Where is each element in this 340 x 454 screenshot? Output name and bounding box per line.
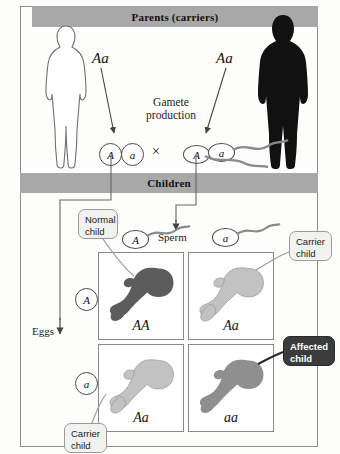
punnett-label-Aa-1: Aa [188, 318, 274, 334]
cross-symbol: × [152, 144, 160, 160]
callout-carrier-bottom-line1: Carrier [71, 428, 100, 439]
gamete-production-line2: production [146, 109, 196, 121]
callout-normal-child: Normal child [78, 209, 118, 239]
sperm-column-allele-A: A [122, 230, 149, 249]
callout-affected-child: Affected child [283, 336, 335, 366]
egg-allele-a: a [121, 143, 144, 166]
callout-carrier-child-bottom: Carrier child [64, 423, 107, 453]
punnett-label-Aa-2: Aa [98, 410, 184, 426]
gamete-production-line1: Gamete [153, 96, 189, 108]
callout-affected-line1: Affected [290, 341, 328, 352]
diagram-canvas: Parents (carriers) Aa Aa Gamete producti… [0, 0, 340, 454]
callout-carrier-top-line2: child [296, 248, 316, 259]
callout-affected-line2: child [290, 353, 312, 364]
punnett-label-aa: aa [188, 410, 274, 426]
band-children: Children [20, 173, 318, 193]
sperm-axis-label: Sperm [158, 231, 187, 243]
egg-row-allele-A: A [75, 288, 98, 311]
sperm-allele-A: A [183, 145, 210, 164]
callout-normal-child-line2: child [85, 226, 105, 237]
mother-genotype-label: Aa [92, 50, 109, 67]
mother-figure-icon [36, 22, 96, 170]
egg-row-allele-a: a [75, 372, 98, 395]
eggs-axis-label: Eggs [32, 325, 54, 337]
callout-normal-child-line1: Normal [85, 214, 116, 225]
punnett-label-AA: AA [98, 318, 184, 334]
father-genotype-label: Aa [216, 50, 233, 67]
egg-allele-A: A [99, 143, 122, 166]
callout-carrier-top-line1: Carrier [296, 236, 325, 247]
sperm-column-allele-a: a [212, 228, 239, 247]
sperm-allele-a: a [208, 143, 235, 162]
gamete-production-label: Gamete production [125, 96, 217, 122]
callout-carrier-child-top: Carrier child [289, 231, 332, 261]
father-figure-icon [252, 12, 314, 170]
callout-carrier-bottom-line2: child [71, 440, 91, 451]
